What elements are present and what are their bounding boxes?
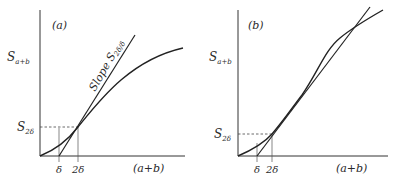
panel-a: (a) Sa+b S2δ δ 2δ (a+b) Slope S2δ/δ — [7, 10, 185, 175]
panel-label: (a) — [52, 19, 67, 32]
svg-text:S2δ: S2δ — [214, 127, 231, 143]
svg-text:Sa+b: Sa+b — [7, 50, 30, 66]
diagram-canvas: (a) Sa+b S2δ δ 2δ (a+b) Slope S2δ/δ (b) … — [0, 0, 393, 182]
y-axis-label-sub: a+b — [15, 58, 30, 66]
slope-line — [59, 35, 135, 156]
svg-text:Sa+b: Sa+b — [209, 50, 232, 66]
y-axis-label: S — [7, 50, 15, 64]
x-axis-label: (a+b) — [336, 162, 367, 175]
s2delta-label-sub: 2δ — [24, 128, 34, 136]
delta-tick-label: δ — [56, 164, 62, 175]
s2delta-label: S — [17, 120, 25, 134]
y-axis-label: S — [209, 50, 217, 64]
x-axis-label: (a+b) — [133, 162, 164, 175]
svg-text:Slope S2δ/δ: Slope S2δ/δ — [86, 37, 127, 94]
s2delta-label: S — [214, 127, 222, 141]
y-axis-label-sub: a+b — [217, 58, 232, 66]
s2delta-label-sub: 2δ — [221, 135, 231, 143]
slope-line — [257, 7, 370, 156]
panel-label: (b) — [248, 19, 264, 32]
svg-text:S2δ: S2δ — [17, 120, 34, 136]
panel-b: (b) Sa+b S2δ δ 2δ (a+b) — [209, 7, 388, 175]
two-delta-tick-label: 2δ — [265, 164, 278, 175]
two-delta-tick-label: 2δ — [71, 164, 84, 175]
delta-tick-label: δ — [254, 164, 260, 175]
